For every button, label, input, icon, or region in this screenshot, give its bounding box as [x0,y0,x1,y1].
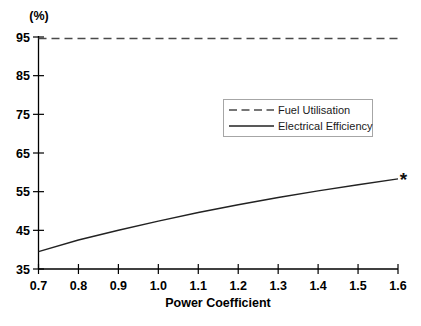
x-tick-label: 1.1 [190,279,207,293]
asterisk-marker: * [400,169,408,190]
x-tick-label: 1.6 [389,279,406,293]
x-tick-label: 1.2 [230,279,247,293]
legend-label-electrical-efficiency: Electrical Efficiency [278,120,373,132]
x-tick-label: 0.8 [70,279,87,293]
legend-item-electrical-efficiency: Electrical Efficiency [228,118,368,134]
x-axis-title: Power Coefficient [165,296,271,310]
dashed-line-sample-icon [228,106,275,114]
legend: Fuel Utilisation Electrical Efficiency [223,99,373,137]
x-tick-label: 0.9 [110,279,127,293]
legend-label-fuel-utilisation: Fuel Utilisation [278,104,350,116]
solid-line-sample-icon [228,122,275,130]
x-tick-label: 0.7 [30,279,47,293]
chart-figure: 354555657585950.70.80.91.01.11.21.31.41.… [0,0,421,326]
y-tick-label: 65 [16,147,30,161]
plot-area: 354555657585950.70.80.91.01.11.21.31.41.… [0,0,421,326]
legend-item-fuel-utilisation: Fuel Utilisation [228,102,368,118]
y-tick-label: 45 [16,224,30,238]
x-tick-label: 1.3 [269,279,286,293]
y-tick-label: 35 [16,263,30,277]
y-tick-label: 75 [16,108,30,122]
x-tick-label: 1.0 [150,279,167,293]
y-tick-label: 95 [16,31,30,45]
x-tick-label: 1.5 [349,279,366,293]
electrical-efficiency-line [39,179,399,252]
y-tick-label: 55 [16,185,30,199]
y-axis-unit-label: (%) [29,9,48,23]
y-tick-label: 85 [16,69,30,83]
x-tick-label: 1.4 [309,279,326,293]
